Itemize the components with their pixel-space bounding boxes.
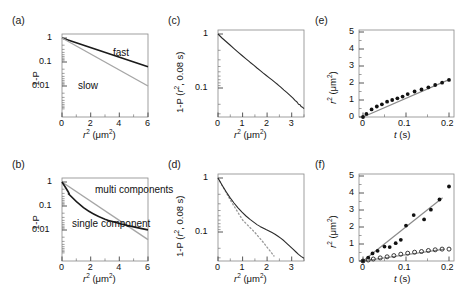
panel-b-xtick-0: 0: [59, 262, 64, 272]
panel-b-xtick-3: 6: [145, 262, 150, 272]
panel-a-annotation-slow: slow: [78, 80, 98, 91]
panel-f-xlabel: t (s): [394, 273, 410, 284]
panel-a-annotation-fast: fast: [113, 47, 129, 58]
panel-e-ytick-0: 0: [349, 111, 354, 121]
panel-f-ylabel: r2 (μm2): [327, 215, 338, 248]
panel-c-xlabel: r2 (μm2): [234, 129, 267, 140]
figure-root: (a): [0, 0, 467, 289]
series-decay-d: [218, 178, 304, 258]
panel-b-ytick-0: 1: [47, 176, 52, 186]
panel-e-ytick-1: 1: [349, 94, 354, 104]
panel-e-ytick-3: 3: [349, 60, 354, 70]
panel-f-xtick-0: 0: [360, 262, 365, 272]
panel-a-ytick-1: 0.1: [39, 56, 52, 66]
panel-f-ytick-5: 5: [349, 170, 354, 180]
panel-d-xtick-0: 0: [215, 262, 220, 272]
panel-a-ytick-0: 1: [47, 32, 52, 42]
panel-e-ylabel: r2 (μm2): [327, 71, 338, 104]
panel-c-ytick-0: 1: [203, 28, 208, 38]
panel-b-ytick-1: 0.1: [39, 200, 52, 210]
panel-d-xtick-1: 1: [240, 262, 245, 272]
panel-b: (b): [0, 144, 156, 289]
panel-f-ytick-3: 3: [349, 204, 354, 214]
panel-b-annotation-multi: multi components: [95, 184, 157, 195]
panel-b-annotation-single: single component: [72, 218, 138, 229]
panel-d: (d): [156, 144, 312, 289]
panel-f-xtick-1: 0.1: [398, 262, 411, 272]
panel-c-ytick-1: 0.1: [195, 82, 208, 92]
panel-d-xlabel: r2 (μm2): [234, 273, 267, 284]
panel-a-xtick-3: 6: [145, 118, 150, 128]
panel-a: (a): [0, 0, 156, 145]
panel-a-xtick-2: 4: [116, 118, 121, 128]
panel-c: (c): [156, 0, 312, 145]
series-single-fit-d: [218, 178, 274, 256]
panel-e-ytick-2: 2: [349, 77, 354, 87]
panel-f-ytick-4: 4: [349, 187, 354, 197]
panel-b-xtick-1: 2: [88, 262, 93, 272]
panel-a-xtick-1: 2: [88, 118, 93, 128]
panel-f-ytick-2: 2: [349, 221, 354, 231]
panel-c-ylabel: 1-P (r2, 0.08 s): [174, 51, 185, 113]
panel-b-xlabel: r2 (μm2): [83, 273, 116, 284]
panel-b-plot: [0, 144, 156, 289]
panel-c-xtick-0: 0: [215, 118, 220, 128]
panel-c-xtick-3: 3: [289, 118, 294, 128]
panel-d-ylabel: 1-P (r2, 0.08 s): [174, 195, 185, 257]
series-decay-c: [218, 34, 304, 109]
panel-f-ytick-0: 0: [349, 255, 354, 265]
panel-b-xtick-2: 4: [116, 262, 121, 272]
panel-e-ytick-4: 4: [349, 43, 354, 53]
panel-a-xlabel: r2 (μm2): [83, 129, 116, 140]
panel-d-xtick-2: 2: [264, 262, 269, 272]
panel-b-ytick-2: 0.01: [32, 224, 50, 234]
panel-f: (f): [311, 144, 467, 289]
panel-a-ytick-2: 0.01: [32, 80, 50, 90]
panel-f-xtick-2: 0.2: [441, 262, 454, 272]
panel-e-ytick-5: 5: [349, 26, 354, 36]
panel-c-xtick-1: 1: [240, 118, 245, 128]
panel-e: (e): [311, 0, 467, 145]
panel-d-ytick-0: 1: [203, 172, 208, 182]
panel-a-xtick-0: 0: [59, 118, 64, 128]
panel-e-xlabel: t (s): [394, 129, 410, 140]
panel-a-plot: [0, 0, 156, 145]
panel-f-ytick-1: 1: [349, 238, 354, 248]
panel-e-xtick-1: 0.1: [398, 118, 411, 128]
panel-d-ytick-1: 0.1: [195, 226, 208, 236]
panel-d-xtick-3: 3: [289, 262, 294, 272]
panel-e-xtick-0: 0: [360, 118, 365, 128]
panel-e-xtick-2: 0.2: [441, 118, 454, 128]
panel-c-xtick-2: 2: [264, 118, 269, 128]
